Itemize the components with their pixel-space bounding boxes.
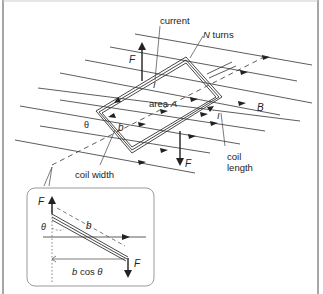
field-arrowheads [108,55,270,165]
label-field-b: B [257,102,264,113]
label-force-top: F [129,54,136,65]
force-arrow-up [138,42,146,81]
rotation-axis [52,56,266,165]
label-current: current [160,15,190,26]
coil-leads [207,62,236,78]
label-n-turns: N turns [203,29,234,40]
inset-label-b: b [86,220,92,231]
label-force-bottom: F [185,158,192,169]
label-current-symbol-2: I [217,111,220,121]
label-coil-length-2: length [227,162,253,173]
label-coil-length-1: coil [227,151,241,162]
label-b: b [118,122,124,133]
inset-label-theta: θ [41,222,46,232]
inset-label-projection: b cos θ [72,266,103,277]
label-coil-width: coil width [75,169,114,180]
label-area: area A [149,98,177,109]
label-theta: θ [84,120,89,130]
inset-label-force-top: F [38,196,45,207]
coil-diagram: current N turns F I area A B I θ b F coi… [0,0,323,294]
inset-label-force-bottom: F [134,258,141,269]
